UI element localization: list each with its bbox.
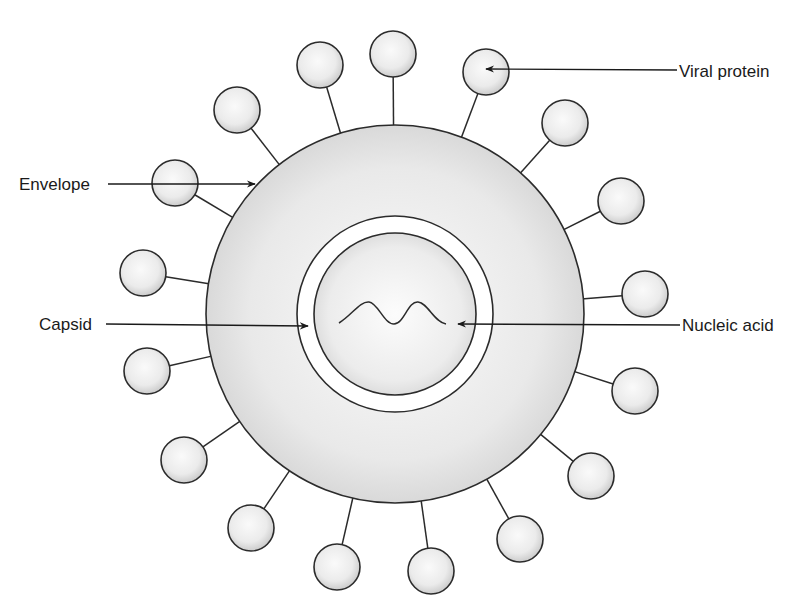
label-nucleic-acid: Nucleic acid	[682, 316, 774, 336]
viral-protein-sphere	[408, 548, 454, 594]
viral-protein-sphere	[297, 42, 343, 88]
viral-protein-sphere	[598, 178, 644, 224]
viral-protein-sphere	[120, 250, 166, 296]
protein-stalk	[264, 469, 291, 509]
protein-stalk	[539, 433, 573, 461]
virus-diagram	[0, 0, 808, 608]
protein-stalk	[519, 140, 549, 174]
protein-stalk	[562, 211, 600, 230]
viral-protein-sphere	[542, 100, 588, 146]
protein-stalk	[461, 94, 478, 139]
protein-stalk	[195, 195, 235, 219]
protein-stalk	[573, 371, 613, 384]
viral-protein-sphere	[370, 31, 416, 77]
viral-protein-sphere	[612, 368, 658, 414]
viral-protein-sphere	[314, 544, 360, 590]
viral-protein-sphere	[228, 505, 274, 551]
protein-stalk	[251, 128, 280, 166]
protein-stalk	[169, 356, 212, 366]
viral-protein-sphere	[497, 516, 543, 562]
viral-protein-sphere	[463, 49, 509, 95]
capsid-core	[314, 233, 476, 395]
viral-protein-sphere	[622, 271, 668, 317]
protein-stalk	[486, 477, 509, 518]
protein-stalk	[327, 87, 341, 135]
label-viral-protein: Viral protein	[679, 62, 769, 82]
viral-protein-sphere	[568, 453, 614, 499]
viral-protein-sphere	[124, 348, 170, 394]
protein-stalk	[166, 277, 211, 284]
protein-stalk	[342, 496, 353, 544]
viral-protein-sphere	[161, 437, 207, 483]
viral-protein-sphere	[152, 160, 198, 206]
protein-stalk	[581, 296, 622, 299]
label-envelope: Envelope	[19, 175, 90, 195]
label-capsid: Capsid	[39, 315, 92, 335]
protein-stalk	[203, 420, 241, 447]
arrow-viral-protein	[486, 69, 677, 70]
viral-protein-sphere	[214, 87, 260, 133]
protein-stalk	[421, 499, 428, 548]
